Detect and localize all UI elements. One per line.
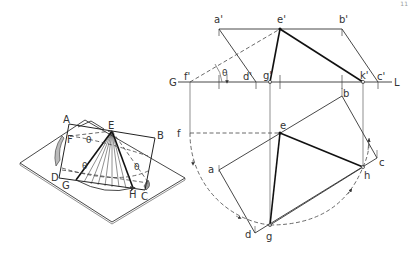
label-theta-2: θ: [82, 161, 88, 171]
label-b-prime: b': [339, 14, 348, 25]
label-h: h: [364, 170, 370, 181]
ground-line-label-l: L: [394, 77, 400, 88]
label-A: A: [63, 114, 70, 125]
label-G: G: [62, 180, 70, 191]
label-f-prime: f': [184, 71, 190, 82]
label-C: C: [141, 191, 148, 202]
label-d-prime: d': [243, 71, 252, 82]
label-H: H: [129, 189, 137, 200]
label-theta-front: θ: [222, 68, 228, 78]
label-F: F: [67, 134, 73, 145]
label-e: e: [280, 120, 286, 131]
label-g: g: [266, 231, 272, 242]
top-view-abcd: [219, 96, 377, 233]
ground-line-label-g: G: [169, 77, 177, 88]
label-c-prime: c': [377, 71, 385, 82]
descriptive-geometry-diagram: A E B F θ θ θ D G H C G L: [0, 0, 412, 254]
orthographic-views: G L a' e' b' f' θ d' g' k' c: [169, 14, 400, 242]
label-a: a: [208, 164, 214, 175]
line-e-prime-k-prime: [280, 29, 363, 82]
pictorial-view: A E B F θ θ θ D G H C: [20, 114, 185, 224]
label-D: D: [51, 172, 59, 183]
label-e-prime: e': [277, 14, 286, 25]
label-b: b: [343, 88, 349, 99]
line-e-h: [280, 133, 363, 167]
label-d: d: [245, 229, 251, 240]
label-theta-1: θ: [86, 135, 92, 145]
label-f: f: [177, 128, 181, 139]
label-E: E: [108, 120, 114, 131]
label-theta-3: θ: [134, 162, 140, 172]
label-c: c: [379, 157, 385, 168]
projector-lines: [190, 82, 377, 233]
label-B: B: [157, 130, 164, 141]
label-a-prime: a': [214, 14, 223, 25]
label-k-prime: k': [360, 70, 369, 81]
line-e-g: [270, 133, 280, 225]
label-g-prime: g': [263, 70, 272, 81]
